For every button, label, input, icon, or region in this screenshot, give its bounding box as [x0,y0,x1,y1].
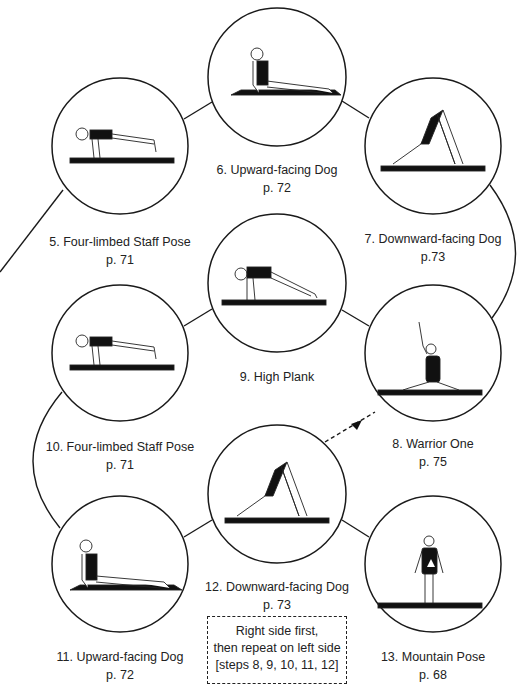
pose-circle-10 [52,285,188,421]
pose-page: p. 72 [217,179,338,197]
pose-circle-5 [52,78,188,214]
pose-circle-9 [208,214,346,352]
pose-label-10: 10. Four-limbed Staff Pose p. 71 [46,438,194,474]
pose-label-5: 5. Four-limbed Staff Pose p. 71 [49,233,191,269]
connector-line [342,101,369,118]
pose-name: 11. Upward-facing Dog [57,648,184,666]
pose-label-12: 12. Downward-facing Dog p. 73 [205,578,349,614]
connector-line [184,520,212,537]
arrowhead-icon [351,420,362,430]
pose-name: 13. Mountain Pose [381,648,485,666]
pose-circle-6 [208,8,346,146]
pose-label-7: 7. Downward-facing Dog p.73 [365,230,502,266]
pose-page: p. 73 [205,596,349,614]
pose-label-6: 6. Upward-facing Dog p. 72 [217,161,338,197]
pose-page: p. 68 [381,666,485,684]
pose-page: p.73 [365,248,502,266]
connector-line [342,520,369,537]
pose-circle-11 [52,496,188,632]
pose-name: 6. Upward-facing Dog [217,161,338,179]
pose-page: p. 72 [57,666,184,684]
pose-name: 8. Warrior One [392,435,474,453]
repeat-note-box: Right side first, then repeat on left si… [207,616,347,684]
pose-name: 12. Downward-facing Dog [205,578,349,596]
dashed-arrow-line [325,412,375,442]
pose-page: p. 71 [49,251,191,269]
note-line-1: Right side first, [208,623,346,640]
connector-line [342,310,369,326]
pose-page: p. 75 [392,453,474,471]
pose-page: p. 71 [46,456,194,474]
pose-name: 10. Four-limbed Staff Pose [46,438,194,456]
pose-name: 9. High Plank [240,368,314,386]
pose-name: 5. Four-limbed Staff Pose [49,233,191,251]
note-line-2: then repeat on left side [208,640,346,657]
pose-label-11: 11. Upward-facing Dog p. 72 [57,648,184,684]
pose-label-8: 8. Warrior One p. 75 [392,435,474,471]
connector-line [184,309,212,326]
connector-line [184,102,212,119]
note-line-3: [steps 8, 9, 10, 11, 12] [208,657,346,674]
pose-label-9: 9. High Plank [240,368,314,386]
pose-label-13: 13. Mountain Pose p. 68 [381,648,485,684]
pose-name: 7. Downward-facing Dog [365,230,502,248]
